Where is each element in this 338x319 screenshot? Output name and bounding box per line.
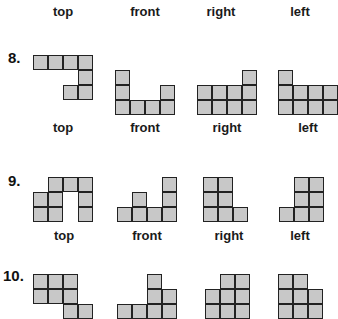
- cube-cell: [48, 274, 63, 289]
- cube-cell: [115, 70, 130, 85]
- cube-cell: [48, 207, 63, 222]
- cube-cell: [218, 177, 233, 192]
- cube-cell: [205, 304, 220, 319]
- cube-cell: [162, 207, 177, 222]
- cube-cell: [294, 192, 309, 207]
- cube-cell: [197, 85, 212, 100]
- cube-cell: [63, 177, 78, 192]
- cube-cell: [48, 177, 63, 192]
- cube-cell: [278, 100, 293, 115]
- cube-cell: [117, 207, 132, 222]
- cube-cell: [278, 304, 293, 319]
- header-label-top: top: [53, 5, 73, 18]
- cube-cell: [220, 274, 235, 289]
- cube-cell: [205, 289, 220, 304]
- cube-cell: [294, 177, 309, 192]
- cube-cell: [63, 289, 78, 304]
- cube-cell: [278, 85, 293, 100]
- problem-number: 10.: [3, 268, 24, 283]
- cube-cell: [160, 85, 175, 100]
- cube-cell: [115, 85, 130, 100]
- cube-cell: [309, 177, 324, 192]
- cube-cell: [147, 207, 162, 222]
- cube-cell: [78, 70, 93, 85]
- cube-cell: [235, 304, 250, 319]
- header-label-left: left: [290, 5, 310, 18]
- cube-cell: [147, 304, 162, 319]
- cube-cell: [78, 177, 93, 192]
- cube-cell: [78, 304, 93, 319]
- cube-cell: [242, 100, 257, 115]
- cube-cell: [130, 100, 145, 115]
- cube-cell: [145, 100, 160, 115]
- cube-cell: [48, 192, 63, 207]
- cube-cell: [203, 207, 218, 222]
- cube-cell: [212, 85, 227, 100]
- cube-cell: [33, 207, 48, 222]
- cube-cell: [78, 207, 93, 222]
- cube-cell: [78, 85, 93, 100]
- view-label-front: front: [130, 121, 160, 134]
- cube-cell: [33, 192, 48, 207]
- cube-cell: [235, 289, 250, 304]
- cube-cell: [220, 304, 235, 319]
- view-label-front: front: [132, 229, 162, 242]
- view-label-top: top: [53, 121, 73, 134]
- cube-cell: [218, 207, 233, 222]
- cube-cell: [78, 192, 93, 207]
- cube-cell: [132, 207, 147, 222]
- cube-cell: [242, 85, 257, 100]
- cube-cell: [48, 289, 63, 304]
- cube-cell: [293, 100, 308, 115]
- cube-cell: [309, 192, 324, 207]
- cube-cell: [293, 289, 308, 304]
- view-label-left: left: [290, 229, 310, 242]
- cube-cell: [308, 100, 323, 115]
- cube-cell: [78, 55, 93, 70]
- cube-cell: [279, 207, 294, 222]
- cube-cell: [308, 289, 323, 304]
- header-label-front: front: [130, 5, 160, 18]
- cube-cell: [132, 304, 147, 319]
- cube-cell: [278, 289, 293, 304]
- cube-cell: [33, 55, 48, 70]
- cube-cell: [117, 304, 132, 319]
- cube-cell: [147, 274, 162, 289]
- cube-cell: [162, 304, 177, 319]
- cube-cell: [203, 192, 218, 207]
- view-label-right: right: [213, 121, 242, 134]
- cube-cell: [48, 55, 63, 70]
- cube-cell: [293, 304, 308, 319]
- cube-cell: [294, 207, 309, 222]
- header-label-right: right: [207, 5, 236, 18]
- view-label-right: right: [215, 229, 244, 242]
- cube-cell: [63, 274, 78, 289]
- cube-cell: [162, 177, 177, 192]
- cube-cell: [162, 192, 177, 207]
- cube-cell: [220, 289, 235, 304]
- cube-cell: [147, 289, 162, 304]
- cube-cell: [323, 100, 338, 115]
- cube-cell: [162, 289, 177, 304]
- cube-cell: [278, 70, 293, 85]
- cube-cell: [197, 100, 212, 115]
- cube-cell: [278, 274, 293, 289]
- cube-cell: [323, 85, 338, 100]
- cube-cell: [227, 85, 242, 100]
- cube-cell: [160, 100, 175, 115]
- cube-cell: [33, 289, 48, 304]
- problem-number: 8.: [8, 50, 21, 65]
- cube-cell: [309, 207, 324, 222]
- cube-cell: [33, 274, 48, 289]
- cube-cell: [212, 100, 227, 115]
- cube-cell: [63, 85, 78, 100]
- cube-cell: [233, 207, 248, 222]
- problem-number: 9.: [8, 173, 21, 188]
- cube-cell: [63, 304, 78, 319]
- cube-cell: [308, 85, 323, 100]
- cube-cell: [235, 274, 250, 289]
- cube-cell: [308, 304, 323, 319]
- cube-cell: [63, 55, 78, 70]
- cube-cell: [115, 100, 130, 115]
- cube-cell: [218, 192, 233, 207]
